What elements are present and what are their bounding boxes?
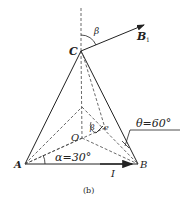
label-a: A [13, 159, 22, 170]
altitude-dashed-line [81, 51, 82, 138]
label-b1: B [136, 30, 146, 43]
label-b1-subscript: 1 [146, 36, 150, 43]
label-alpha: α=30° [55, 151, 91, 164]
label-e: e [104, 123, 109, 132]
pyramid-diagram: C A B O B 1 β β e α=30° θ=60° I (b) [0, 0, 186, 204]
label-current: I [110, 168, 116, 179]
beta-arc-top [81, 35, 96, 45]
e-vector [96, 126, 103, 133]
label-beta-top: β [93, 26, 99, 36]
label-beta-inner: β [89, 123, 95, 132]
theta-leader-line [125, 130, 180, 146]
label-b: B [139, 159, 147, 170]
edge-cb [81, 51, 138, 164]
label-o: O [71, 132, 79, 143]
figure-caption: (b) [83, 186, 94, 195]
label-c: C [69, 45, 78, 58]
alpha-arc [43, 155, 45, 164]
edge-ca [25, 51, 81, 164]
label-theta: θ=60° [136, 117, 171, 130]
